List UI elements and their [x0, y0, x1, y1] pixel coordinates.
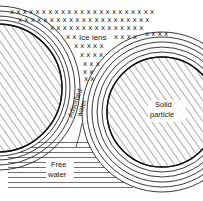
- svg-text:x x x x x x x x x x x x x x x: x x x x x x x x x x x x x x x x x x x x …: [10, 8, 154, 16]
- svg-text:x x x: x x x: [83, 60, 100, 68]
- svg-text:x x x x x: x x x x x: [74, 42, 104, 50]
- free-water-label-line2: water: [47, 170, 67, 179]
- solid-particle-label-line2: particle: [150, 110, 174, 119]
- svg-text:x x x x: x x x x: [80, 51, 103, 59]
- svg-text:x x x x: x x x x: [145, 30, 168, 38]
- svg-text:x x x x x x x x x x x x x x x: x x x x x x x x x x x x x x x x x x x x …: [18, 16, 150, 24]
- solid-particle-label-line1: Solid: [155, 100, 172, 109]
- svg-text:x x: x x: [84, 75, 95, 83]
- svg-text:x x x x x x x x x x x x x x x: x x x x x x x x x x x x x x x: [50, 24, 143, 32]
- svg-text:x x x x: x x x x: [114, 33, 137, 41]
- left-solid-particle: [0, 24, 62, 152]
- svg-text:x x: x x: [66, 33, 77, 41]
- ice-lens-label: Ice lens: [79, 33, 107, 42]
- soil-ice-lens-diagram: x x x x x x x x x x x x x x x x x x x x …: [0, 0, 203, 201]
- free-water-label-line1: Free: [51, 160, 66, 169]
